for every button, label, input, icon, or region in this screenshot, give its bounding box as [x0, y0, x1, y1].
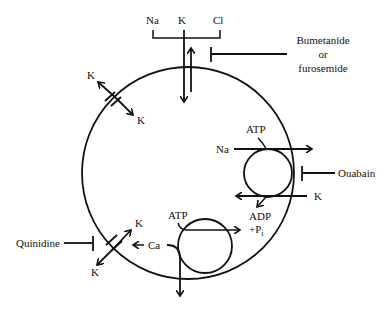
- label-cl: Cl: [213, 14, 223, 26]
- label-k-in: K: [137, 114, 145, 126]
- label-na: Na: [216, 143, 229, 155]
- bumetanide-inhibitor: Bumetanide or furosemide: [211, 34, 350, 74]
- cell-transport-diagram: Na K Cl Bumetanide or furosemide K K ATP…: [0, 0, 392, 313]
- label-or: or: [318, 48, 328, 60]
- k-channel-top: K K: [87, 69, 145, 126]
- channel-bar-1: [106, 235, 117, 245]
- label-atp: ATP: [168, 209, 188, 221]
- k-channel-bottom: K K Quinidine: [16, 217, 143, 278]
- cotransporter-bracket: [153, 30, 220, 38]
- label-adp: ADP: [249, 210, 271, 222]
- label-k-out: K: [91, 266, 99, 278]
- label-furosemide: furosemide: [298, 62, 348, 74]
- adp-arrow: [257, 197, 266, 207]
- ca-atpase: ATP Ca: [133, 209, 240, 296]
- label-k-out: K: [87, 69, 95, 81]
- label-k: K: [314, 190, 322, 202]
- diagram-canvas: Na K Cl Bumetanide or furosemide K K ATP…: [0, 0, 392, 313]
- channel-bar-2: [111, 241, 122, 251]
- na-k-atpase: ATP Na K ADP +Pi Ouabain: [216, 123, 376, 238]
- pump-circle: [178, 219, 232, 273]
- label-ouabain: Ouabain: [338, 167, 376, 179]
- label-k-in: K: [135, 217, 143, 229]
- pump-circle: [244, 149, 292, 197]
- label-atp: ATP: [246, 123, 266, 135]
- label-ca: Ca: [148, 239, 160, 251]
- label-bumetanide: Bumetanide: [296, 34, 349, 46]
- label-na: Na: [146, 14, 159, 26]
- label-k: K: [178, 14, 186, 26]
- label-pi: +Pi: [249, 223, 264, 238]
- label-quinidine: Quinidine: [16, 237, 60, 249]
